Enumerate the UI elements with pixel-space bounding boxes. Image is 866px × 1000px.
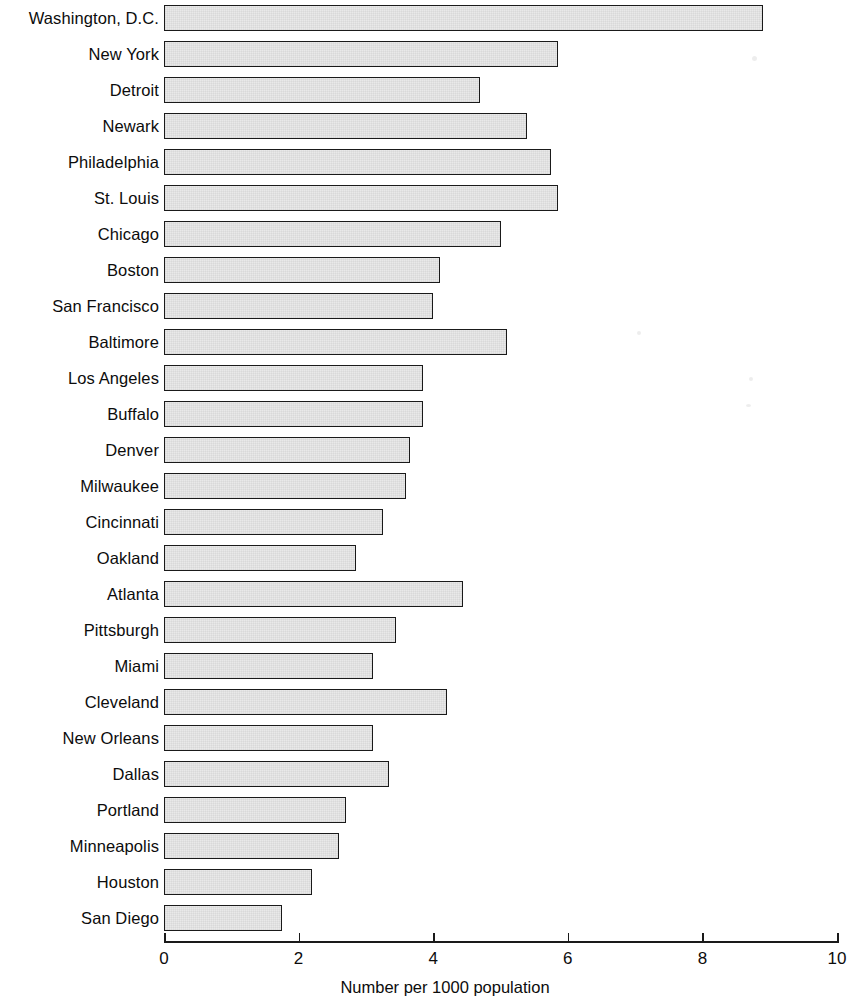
category-label: San Francisco [0,298,159,315]
x-axis-line [164,941,839,943]
bar [164,725,373,751]
bar [164,833,339,859]
bar [164,437,410,463]
bar [164,617,396,643]
category-label: Pittsburgh [0,622,159,639]
category-label: Buffalo [0,406,159,423]
bar-row: Newark [0,111,866,141]
bar-row: St. Louis [0,183,866,213]
category-label: St. Louis [0,190,159,207]
x-axis-tick-label: 2 [279,950,319,967]
bar [164,761,389,787]
category-label: Boston [0,262,159,279]
bar [164,293,433,319]
bar [164,581,463,607]
bar [164,113,527,139]
category-label: Newark [0,118,159,135]
bar [164,185,558,211]
bar-row: San Diego [0,903,866,933]
bar-row: Oakland [0,543,866,573]
bar [164,257,440,283]
category-label: Denver [0,442,159,459]
bar-row: Houston [0,867,866,897]
category-label: Cincinnati [0,514,159,531]
bar [164,545,356,571]
bar-row: San Francisco [0,291,866,321]
bar [164,869,312,895]
x-axis-tick [299,933,301,942]
bar-row: Washington, D.C. [0,3,866,33]
bar [164,149,551,175]
x-axis-title: Number per 1000 population [0,978,866,997]
bar-row: Pittsburgh [0,615,866,645]
bar-row: Buffalo [0,399,866,429]
x-axis-title-text: Number per 1000 population [340,978,549,997]
bar [164,221,501,247]
bar-row: Cleveland [0,687,866,717]
category-label: Atlanta [0,586,159,603]
x-axis-tick-label: 8 [682,950,722,967]
bar [164,473,406,499]
category-label: Dallas [0,766,159,783]
category-label: Portland [0,802,159,819]
bar-row: Atlanta [0,579,866,609]
bar-row: Detroit [0,75,866,105]
x-axis-tick-label: 0 [144,950,184,967]
bar [164,77,480,103]
bar [164,653,373,679]
category-label: Baltimore [0,334,159,351]
bar-row: Cincinnati [0,507,866,537]
bar-row: Denver [0,435,866,465]
bar-row: Boston [0,255,866,285]
category-label: Los Angeles [0,370,159,387]
bar-row: Dallas [0,759,866,789]
x-axis-tick [433,933,435,942]
x-axis-tick-label: 4 [413,950,453,967]
category-label: Minneapolis [0,838,159,855]
bar [164,509,383,535]
x-axis-right-cap [837,933,839,942]
category-label: Chicago [0,226,159,243]
bar-row: Los Angeles [0,363,866,393]
category-label: Washington, D.C. [0,10,159,27]
category-label: Miami [0,658,159,675]
x-axis-tick-label: 10 [817,950,857,967]
bar-row: Baltimore [0,327,866,357]
bar-row: Miami [0,651,866,681]
x-axis-tick [702,933,704,942]
x-axis-left-cap [164,933,166,942]
category-label: Cleveland [0,694,159,711]
plot-area: Washington, D.C.New YorkDetroitNewarkPhi… [0,0,866,940]
bar [164,905,282,931]
bar [164,689,447,715]
bar [164,41,558,67]
bar-row: New York [0,39,866,69]
bar [164,401,423,427]
x-axis-tick [568,933,570,942]
category-label: San Diego [0,910,159,927]
category-label: Oakland [0,550,159,567]
x-axis-tick-label: 6 [548,950,588,967]
bar-row: Milwaukee [0,471,866,501]
category-label: New York [0,46,159,63]
category-label: Houston [0,874,159,891]
bar-row: Portland [0,795,866,825]
bar-row: Minneapolis [0,831,866,861]
bar-row: New Orleans [0,723,866,753]
bar-chart: Washington, D.C.New YorkDetroitNewarkPhi… [0,0,866,1000]
bar [164,797,346,823]
bar [164,365,423,391]
bar [164,329,507,355]
category-label: Milwaukee [0,478,159,495]
bar-row: Philadelphia [0,147,866,177]
bar-row: Chicago [0,219,866,249]
category-label: Detroit [0,82,159,99]
category-label: Philadelphia [0,154,159,171]
bar [164,5,763,31]
category-label: New Orleans [0,730,159,747]
